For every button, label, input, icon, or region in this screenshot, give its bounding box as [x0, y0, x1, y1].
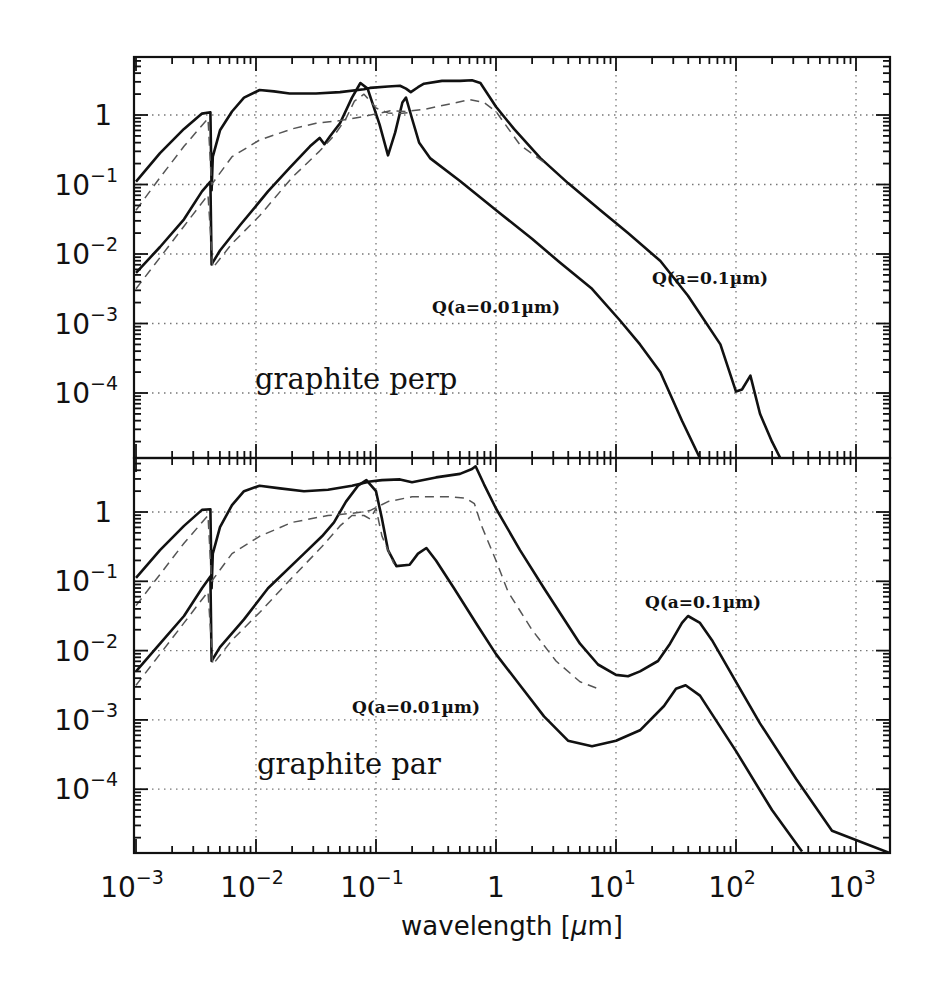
dashed-curve	[136, 94, 412, 289]
x-axis-title: wavelength [µm]	[401, 911, 623, 941]
y-tick-label: 10−4	[54, 768, 118, 806]
y-tick-label: 10−3	[54, 699, 118, 737]
x-tick-label: 102	[708, 866, 756, 904]
top-axis-ticks	[134, 57, 890, 458]
solid-curve	[136, 480, 802, 851]
top-label-q-0.1um: Q(a=0.1µm)	[652, 268, 768, 288]
top-panel-label: graphite perp	[255, 362, 457, 396]
top-gridlines	[134, 57, 890, 458]
x-tick-label: 103	[828, 866, 876, 904]
bottom-label-q-0.01um: Q(a=0.01µm)	[352, 697, 480, 717]
y-tick-label: 10−2	[54, 233, 118, 271]
top-panel-graphite-perp: graphite perp Q(a=0.1µm) Q(a=0.01µm)	[134, 57, 890, 458]
bottom-panel-graphite-par: graphite par Q(a=0.1µm) Q(a=0.01µm)	[134, 458, 890, 853]
y-tick-label: 1	[94, 99, 112, 132]
bottom-panel-label: graphite par	[257, 747, 441, 781]
y-tick-label: 10−1	[54, 164, 118, 202]
y-tick-label: 10−4	[54, 372, 118, 410]
y-tick-label: 10−2	[54, 630, 118, 668]
bottom-label-q-0.1um: Q(a=0.1µm)	[645, 592, 761, 612]
solid-curve	[136, 466, 890, 853]
x-tick-label: 10−1	[340, 866, 404, 904]
solid-curve	[136, 83, 700, 458]
y-tick-label: 1	[94, 496, 112, 529]
top-y-tick-labels: 110−110−210−310−4	[54, 99, 118, 410]
x-tick-label: 10−3	[100, 866, 164, 904]
y-tick-label: 10−1	[54, 560, 118, 598]
x-tick-label: 10−2	[220, 866, 284, 904]
chart: graphite perp Q(a=0.1µm) Q(a=0.01µm) gra…	[0, 0, 940, 1002]
y-tick-label: 10−3	[54, 303, 118, 341]
top-label-q-0.01um: Q(a=0.01µm)	[432, 297, 560, 317]
dashed-curve	[136, 497, 598, 689]
x-tick-labels: 10−310−210−11101102103	[100, 866, 876, 904]
bottom-y-tick-labels: 110−110−210−310−4	[54, 496, 118, 806]
bottom-curves	[136, 466, 890, 853]
bottom-gridlines	[134, 458, 890, 853]
x-tick-label: 101	[588, 866, 636, 904]
bottom-axis-ticks	[134, 458, 890, 853]
x-tick-label: 1	[487, 871, 505, 904]
top-plot-frame	[134, 57, 890, 458]
bottom-plot-frame	[134, 458, 890, 853]
